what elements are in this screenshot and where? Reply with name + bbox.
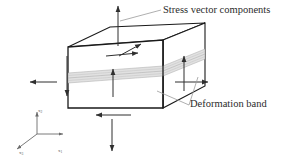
axis-x1-subscript: 1 xyxy=(61,150,63,154)
axis-x3-subscript: 3 xyxy=(22,152,24,156)
coordinate-triad xyxy=(17,112,63,149)
figure-canvas: Stress vector components Deformation ban… xyxy=(0,0,284,162)
axis-label-x1: x1 xyxy=(58,148,62,154)
diagram-svg xyxy=(0,0,284,162)
stress-vector-components-label: Stress vector components xyxy=(163,5,270,16)
leader-stress xyxy=(120,10,161,21)
axis-x3-line xyxy=(17,134,37,149)
axis-x2-subscript: 2 xyxy=(41,110,43,114)
axis-label-x3: x3 xyxy=(19,150,23,156)
axis-label-x2: x2 xyxy=(38,108,42,114)
deformation-band-label: Deformation band xyxy=(190,99,267,110)
